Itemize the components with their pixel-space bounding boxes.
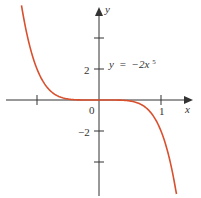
y-axis-label: y bbox=[104, 3, 110, 15]
chart: y x 0 1 2 −2 y = −2x 5 bbox=[0, 0, 201, 198]
y-tick-label-neg2: −2 bbox=[78, 126, 90, 138]
x-axis-label: x bbox=[184, 103, 190, 115]
x-tick-label-1: 1 bbox=[159, 105, 165, 117]
y-tick-label-2: 2 bbox=[84, 64, 90, 76]
equation-label: y = −2x 5 bbox=[108, 58, 156, 70]
x-tick-label-0: 0 bbox=[89, 104, 95, 116]
y-axis-arrow-icon bbox=[95, 7, 103, 16]
